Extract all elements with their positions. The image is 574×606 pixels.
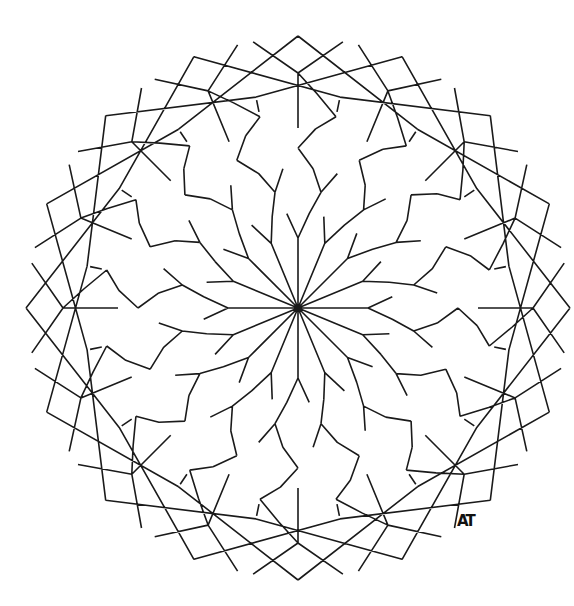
artist-signature: AT [457,512,474,530]
mandala-drawing [0,0,574,606]
mandala-lines [26,36,570,580]
